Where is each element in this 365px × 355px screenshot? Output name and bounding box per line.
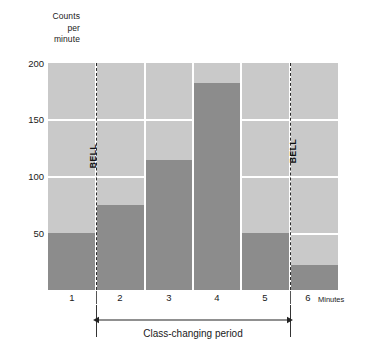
bell-label-right: BELL: [288, 130, 298, 172]
y-axis-tick-labels: 200 150 100 50: [0, 0, 44, 355]
x-axis-unit-label: Minutes: [318, 295, 344, 304]
bar-minute-3: [145, 160, 193, 291]
bar-minute-6: [290, 265, 338, 290]
class-changing-period-label: Class-changing period: [48, 328, 338, 339]
x-tick-2: 2: [96, 292, 144, 303]
bell-label-left: BELL: [88, 135, 98, 177]
chart-root: Counts per minute 200 150 100 50 BELL: [0, 0, 365, 355]
x-tick-4: 4: [193, 292, 241, 303]
x-tick-1: 1: [48, 292, 96, 303]
plot-area: BELL BELL: [48, 63, 338, 290]
bar-minute-2: [96, 205, 145, 290]
y-tick-50: 50: [4, 228, 44, 239]
bar-minute-1: [48, 233, 96, 290]
y-tick-100: 100: [4, 171, 44, 182]
x-tick-3: 3: [145, 292, 193, 303]
column-separator-2: [144, 63, 146, 290]
bell-line-right: [290, 63, 291, 290]
bar-minute-4: [193, 83, 241, 290]
x-tick-5: 5: [241, 292, 289, 303]
y-tick-150: 150: [4, 114, 44, 125]
y-tick-200: 200: [4, 58, 44, 69]
bar-minute-5: [241, 233, 290, 290]
x-axis-tick-labels: 1 2 3 4 5 6: [48, 292, 338, 310]
column-separator-4: [240, 63, 242, 290]
column-separator-3: [192, 63, 194, 290]
x-axis-separator-left: [96, 291, 97, 304]
x-axis-separator-right: [290, 291, 291, 304]
